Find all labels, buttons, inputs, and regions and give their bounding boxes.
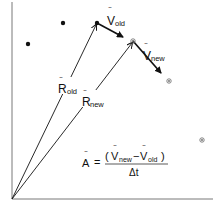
svg-text:(: ( (105, 150, 109, 162)
trajectory-point-1 (26, 42, 30, 46)
svg-text:old: old (148, 156, 157, 163)
svg-text:): ) (161, 150, 165, 162)
svg-text:⌢: ⌢ (144, 40, 148, 46)
svg-text:new: new (90, 100, 104, 109)
trajectory-point-5 (167, 79, 171, 83)
svg-text:⌢: ⌢ (59, 74, 63, 80)
v-new-label: ⌢ V new (143, 40, 165, 63)
svg-text:R: R (58, 82, 67, 96)
r-old-label: ⌢ R old (56, 74, 82, 96)
motion-diagram: ⌢ V old ⌢ V new ⌢ R old ⌢ R new ⌢ A = ( … (0, 0, 219, 206)
svg-text:⌢: ⌢ (113, 142, 117, 148)
svg-text:new: new (119, 156, 133, 163)
trajectory-point-6 (200, 138, 204, 142)
svg-text:Δt: Δt (129, 167, 139, 178)
trajectory-point-2 (61, 21, 65, 25)
svg-text:old: old (67, 87, 77, 96)
r-new-vector (12, 43, 132, 199)
v-old-label: ⌢ V old (107, 4, 125, 28)
svg-text:V: V (107, 14, 115, 28)
svg-text:⌢: ⌢ (142, 142, 146, 148)
svg-text:A: A (82, 157, 90, 169)
svg-text:⌢: ⌢ (83, 87, 87, 93)
svg-text:old: old (115, 19, 125, 28)
svg-text:−: − (133, 150, 139, 162)
trajectory-point-old (95, 21, 99, 25)
svg-text:⌢: ⌢ (108, 4, 112, 10)
svg-text:V: V (140, 150, 148, 162)
svg-text:V: V (143, 49, 151, 63)
svg-text:=: = (94, 156, 100, 168)
svg-text:V: V (111, 150, 119, 162)
svg-text:new: new (151, 54, 165, 63)
trajectory-point-new (131, 39, 135, 43)
acceleration-formula: ⌢ A = ( ⌢ V new − ⌢ V old ) Δt (82, 142, 168, 178)
r-old-vector (12, 25, 96, 199)
svg-text:⌢: ⌢ (84, 148, 88, 154)
r-new-label: ⌢ R new (80, 87, 108, 109)
